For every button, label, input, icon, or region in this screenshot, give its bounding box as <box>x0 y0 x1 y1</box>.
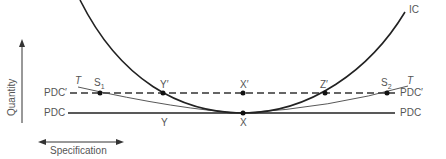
point-s2-subscript: 2 <box>388 83 392 90</box>
point-z-prime <box>323 91 328 96</box>
point-s1 <box>98 91 103 96</box>
point-x-prime-label: X′ <box>240 80 249 90</box>
specification-axis-label: Specification <box>50 146 107 156</box>
point-y-prime <box>161 91 166 96</box>
pdc-prime-label-left: PDC′ <box>44 88 67 98</box>
point-s1-label: S1 <box>94 78 105 90</box>
point-x <box>241 111 246 116</box>
diagram-graphics <box>0 0 446 159</box>
pdc-label-right: PDC <box>400 108 421 118</box>
pdc-prime-label-right: PDC′ <box>400 88 423 98</box>
point-s2-letter: S <box>381 77 388 88</box>
point-x-prime <box>241 91 246 96</box>
point-s1-subscript: 1 <box>101 83 105 90</box>
pdc-label-left: PDC <box>44 108 65 118</box>
quantity-axis-label: Quantity <box>6 79 17 116</box>
quantity-axis-arrow <box>19 39 25 123</box>
point-s2-label: S2 <box>381 78 392 90</box>
point-z-prime-label: Z′ <box>320 80 328 90</box>
point-s2 <box>385 91 390 96</box>
tangent-left-label: T <box>75 76 81 86</box>
indifference-curve <box>80 0 405 113</box>
point-x-label: X <box>240 118 247 128</box>
point-y-prime-label: Y′ <box>160 80 169 90</box>
point-s1-letter: S <box>94 77 101 88</box>
ic-label: IC <box>409 5 419 15</box>
point-y-label: Y <box>161 118 168 128</box>
diagram-canvas: Quantity Specification IC T T PDC′ PDC P… <box>0 0 446 159</box>
tangent-right-label: T <box>407 76 413 86</box>
